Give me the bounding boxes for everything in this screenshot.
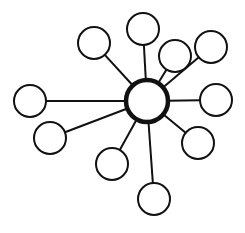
spoke-edge [120, 119, 137, 150]
spoke-nodes [14, 13, 232, 215]
node-bottom [138, 183, 170, 215]
spoke-edge [158, 70, 166, 84]
spoke-edge [105, 55, 133, 86]
node-top [127, 13, 159, 45]
node-upper-right-inner [159, 40, 191, 72]
node-upper-right-outer [195, 31, 227, 63]
hub-circle [126, 80, 168, 122]
hub-node [126, 80, 168, 122]
node-upper-left [78, 27, 110, 59]
spoke-edge [163, 114, 185, 132]
spoke-edge [144, 45, 146, 80]
node-right [200, 84, 232, 116]
node-lower-middle [96, 148, 128, 180]
node-lower-left [34, 122, 66, 154]
node-lower-right [182, 127, 214, 159]
hub-spoke-diagram [0, 0, 245, 233]
spoke-edge [148, 122, 152, 183]
node-left [14, 85, 46, 117]
spoke-edge [65, 108, 127, 132]
